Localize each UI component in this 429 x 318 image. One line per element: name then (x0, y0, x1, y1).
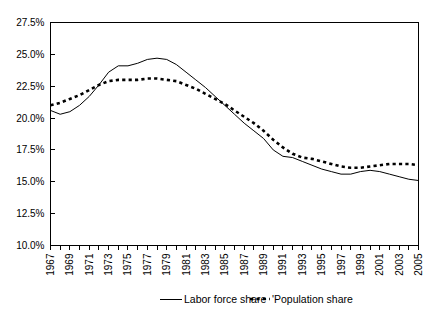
y-axis-tick-labels: 27.5%25.0%22.5%20.0%17.5%15.0%12.5%10.0% (16, 17, 44, 251)
x-axis-tick-labels: 1967196919711973197519771979198119831985… (45, 253, 424, 276)
x-axis-tick-label: 1979 (161, 253, 172, 276)
y-axis-tick-label: 17.5% (16, 144, 44, 155)
x-axis-tick-label: 1969 (64, 253, 75, 276)
x-axis-tick-label: 1971 (84, 253, 95, 276)
x-axis-tick-label: 2003 (394, 253, 405, 276)
x-axis-tick-label: 1973 (103, 253, 114, 276)
x-axis-tick-label: 1967 (45, 253, 56, 276)
y-axis-tick-label: 15.0% (16, 176, 44, 187)
series-population-share-line (51, 79, 419, 168)
series-labor-force-share-line (51, 58, 419, 180)
x-axis-tick-label: 2005 (413, 253, 424, 276)
x-axis-tick-label: 1975 (122, 253, 133, 276)
x-axis-tick-label: 1993 (297, 253, 308, 276)
plot-area-frame (51, 23, 419, 246)
x-axis-tick-label: 1999 (355, 253, 366, 276)
x-axis-tick-label: 1983 (200, 253, 211, 276)
y-axis-tick-label: 22.5% (16, 81, 44, 92)
x-axis-tick-label: 2001 (374, 253, 385, 276)
x-axis-tick-label: 1991 (277, 253, 288, 276)
x-axis-tick-label: 1977 (142, 253, 153, 276)
x-axis-tick-label: 1985 (219, 253, 230, 276)
chart-legend: Labor force share 'Population share (160, 293, 353, 305)
y-axis-tick-label: 27.5% (16, 17, 44, 28)
y-axis-tick-label: 12.5% (16, 208, 44, 219)
y-axis-tick-label: 25.0% (16, 49, 44, 60)
legend-item-population-share: 'Population share (272, 293, 353, 305)
chart-container: 27.5%25.0%22.5%20.0%17.5%15.0%12.5%10.0%… (0, 0, 429, 318)
x-axis-tick-label: 1981 (181, 253, 192, 276)
y-axis-tick-label: 20.0% (16, 113, 44, 124)
line-chart: 27.5%25.0%22.5%20.0%17.5%15.0%12.5%10.0%… (0, 0, 429, 318)
x-axis-tick-label: 1989 (258, 253, 269, 276)
x-axis-tick-label: 1987 (239, 253, 250, 276)
legend-item-labor-force-share: Labor force share (184, 293, 266, 305)
x-axis-tick-label: 1995 (316, 253, 327, 276)
x-axis-tick-marks (51, 246, 419, 250)
x-axis-tick-label: 1997 (336, 253, 347, 276)
y-axis-tick-marks (51, 23, 55, 246)
y-axis-tick-label: 10.0% (16, 240, 44, 251)
